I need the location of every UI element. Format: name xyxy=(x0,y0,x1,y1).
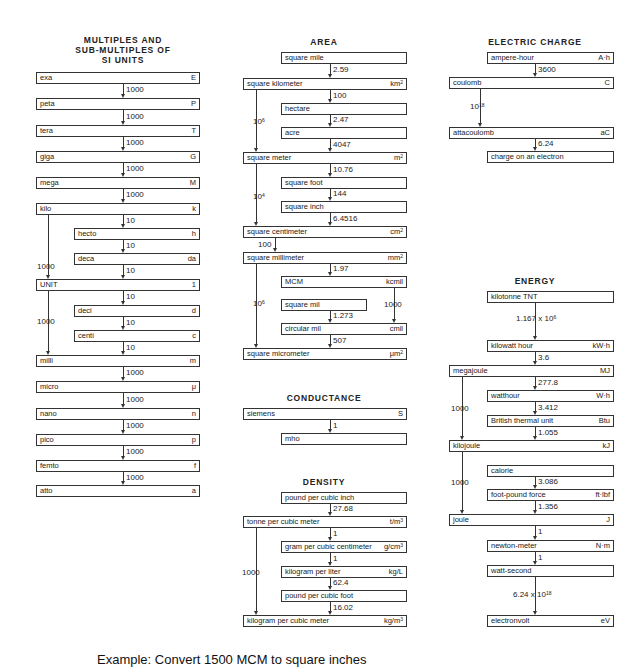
area-factor-label: 10.76 xyxy=(333,165,353,175)
unit-name: pound per cubic foot xyxy=(285,591,353,601)
si-factor-label: 10 xyxy=(126,292,135,302)
charge-unit-attacoulomb: attacoulombaC xyxy=(449,127,614,139)
arrow-down-icon xyxy=(254,148,258,152)
density-factor-label: 27.68 xyxy=(333,504,353,514)
si-factor-label: 1000 xyxy=(126,447,144,457)
energy-title: ENERGY xyxy=(485,276,585,286)
arrow-down-icon xyxy=(328,344,332,348)
area-factor-label: 100 xyxy=(333,91,346,101)
area-unit-square-micrometer: square micrometerμm2 xyxy=(243,348,407,360)
arrow-down-icon xyxy=(254,344,258,348)
conductance-unit-mho: mho xyxy=(281,433,407,445)
example-caption: Example: Convert 1500 MCM to square inch… xyxy=(97,652,367,667)
energy-unit-megajoule: megajouleMJ xyxy=(449,365,614,377)
unit-symbol: A·h xyxy=(598,53,610,63)
si-factor-label: 1000 xyxy=(126,138,144,148)
si-factor-label: 1000 xyxy=(126,395,144,405)
unit-name: megajoule xyxy=(453,366,488,376)
arrow-down-icon xyxy=(533,336,537,340)
density-unit-pound-per-cubic-inch: pound per cubic inch xyxy=(281,492,407,504)
arrow-down-icon xyxy=(121,404,125,408)
unit-name: calorie xyxy=(491,466,513,476)
charge-factor-label: 6.24 xyxy=(538,139,554,149)
unit-symbol: m xyxy=(190,356,196,366)
arrow-down-icon xyxy=(121,199,125,203)
unit-name: nano xyxy=(40,409,57,419)
energy-factor-label: 1000 xyxy=(451,404,469,414)
energy-unit-joule: jouleJ xyxy=(449,514,614,526)
unit-symbol: p xyxy=(192,435,196,445)
si-factor-label: 1000 xyxy=(126,190,144,200)
si-factor-label: 10 xyxy=(126,266,135,276)
density-factor-label: 1000 xyxy=(242,568,260,578)
arrow-down-icon xyxy=(533,510,537,514)
area-unit-square-mil: square mil xyxy=(281,299,367,311)
arrow-down-icon xyxy=(121,147,125,151)
unit-name: British thermal unit xyxy=(491,416,553,426)
unit-name: hectare xyxy=(285,104,310,114)
unit-name: kilogram per liter xyxy=(285,567,340,577)
arrow-down-icon xyxy=(121,224,125,228)
si-factor-label: 1000 xyxy=(126,473,144,483)
unit-symbol: eV xyxy=(601,616,610,626)
arrow-down-icon xyxy=(121,249,125,253)
energy-factor-label: 6.24 x 1018 xyxy=(513,590,551,600)
arrow-down-icon xyxy=(533,411,537,415)
density-factor-label: 62.4 xyxy=(333,578,349,588)
unit-name: micro xyxy=(40,382,58,392)
area-unit-square-mile: square mile xyxy=(281,52,407,64)
arrow-down-icon xyxy=(121,456,125,460)
unit-name: square foot xyxy=(285,178,323,188)
si-factor-label: 1000 xyxy=(126,164,144,174)
arrow-down-icon xyxy=(460,510,464,514)
arrow-down-icon xyxy=(121,94,125,98)
si-unit-deci: decid xyxy=(74,305,200,317)
unit-symbol: kg/m3 xyxy=(384,616,403,626)
unit-name: square mile xyxy=(285,53,324,63)
arrow-down-icon xyxy=(328,123,332,127)
unit-symbol: μm2 xyxy=(390,349,403,359)
energy-unit-foot-pound-force: foot-pound forceft·lbf xyxy=(487,489,614,501)
energy-factor-label: 277.8 xyxy=(538,378,558,388)
unit-symbol: c xyxy=(192,331,196,341)
unit-symbol: f xyxy=(194,461,196,471)
charge-factor-label: 3600 xyxy=(538,65,556,75)
unit-symbol: g/cm3 xyxy=(384,542,403,552)
unit-name: femto xyxy=(40,461,59,471)
area-factor-label: 2.59 xyxy=(333,65,349,75)
conductance-title: CONDUCTANCE xyxy=(259,393,389,403)
arrow-down-icon xyxy=(273,248,277,252)
arrow-down-icon xyxy=(328,319,332,323)
unit-name: square millimeter xyxy=(247,253,304,263)
unit-name: tonne per cubic meter xyxy=(247,517,320,527)
unit-symbol: cm2 xyxy=(390,227,403,237)
unit-name: UNIT xyxy=(40,280,58,290)
unit-name: tera xyxy=(40,126,53,136)
si-factor-label: 10 xyxy=(126,343,135,353)
arrow-down-icon xyxy=(328,74,332,78)
si-unit-hecto: hectoh xyxy=(74,228,200,240)
density-unit-kilogram-per-cubic-meter: kilogram per cubic meterkg/m3 xyxy=(243,615,407,627)
arrow-down-icon xyxy=(121,275,125,279)
arrow-down-icon xyxy=(121,351,125,355)
unit-name: attacoulomb xyxy=(453,128,494,138)
arrow-down-icon xyxy=(121,430,125,434)
charge-factor-label: 1018 xyxy=(470,102,484,112)
unit-symbol: W·h xyxy=(596,391,610,401)
unit-name: pico xyxy=(40,435,54,445)
unit-symbol: G xyxy=(190,152,196,162)
arrow-down-icon xyxy=(328,148,332,152)
area-factor-label: 1000 xyxy=(384,300,402,310)
si-unit-exa: exaE xyxy=(36,72,200,84)
unit-name: square micrometer xyxy=(247,349,310,359)
area-unit-square-millimeter: square millimetermm2 xyxy=(243,252,407,264)
arrow-down-icon xyxy=(121,173,125,177)
area-unit-square-centimeter: square centimetercm2 xyxy=(243,226,407,238)
si-factor-label: 1000 xyxy=(126,421,144,431)
arrow-down-icon xyxy=(46,275,50,279)
si-unit-femto: femtof xyxy=(36,460,200,472)
unit-name: square inch xyxy=(285,202,324,212)
energy-unit-kilotonne-tnt: kilotonne TNT xyxy=(487,291,614,303)
unit-symbol: kg/L xyxy=(389,567,403,577)
energy-factor-label: 3.086 xyxy=(538,477,558,487)
